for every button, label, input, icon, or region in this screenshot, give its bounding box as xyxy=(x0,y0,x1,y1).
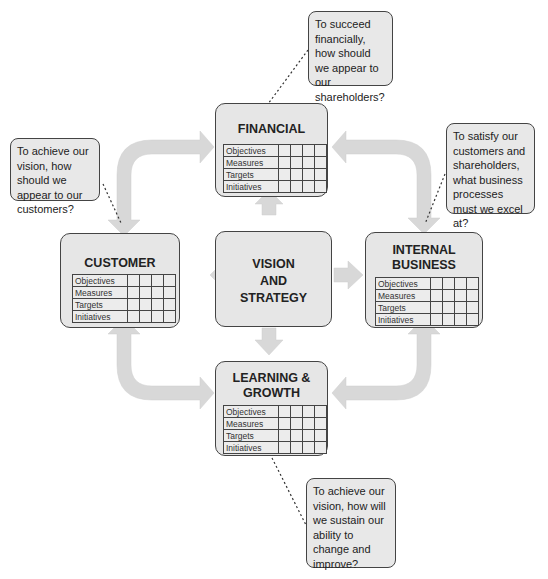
table-row: Objectives xyxy=(376,278,479,290)
arrow-customer-to-financial xyxy=(108,131,214,236)
scorecard-cell xyxy=(455,278,467,290)
scorecard-cell xyxy=(279,157,291,169)
table-row: Measures xyxy=(376,290,479,302)
vision-strategy-title: VISION AND STRATEGY xyxy=(216,256,331,307)
scorecard-cell xyxy=(431,278,443,290)
scorecard-cell xyxy=(140,299,152,311)
row-label-targets: Targets xyxy=(376,302,431,314)
connector-financial-question xyxy=(268,50,308,104)
customer-perspective-box: CUSTOMER Objectives Measures Targets Ini… xyxy=(60,233,180,328)
customer-scorecard-table: Objectives Measures Targets Initiatives xyxy=(72,274,176,323)
financial-title: FINANCIAL xyxy=(216,122,327,137)
learning-growth-title: LEARNING & GROWTH xyxy=(216,371,327,401)
scorecard-cell xyxy=(152,275,164,287)
table-row: Objectives xyxy=(224,145,327,157)
scorecard-cell xyxy=(164,311,176,323)
internal-title-line-1: INTERNAL xyxy=(366,243,482,258)
financial-perspective-box: FINANCIAL Objectives Measures Targets In… xyxy=(215,103,328,197)
row-label-objectives: Objectives xyxy=(73,275,128,287)
scorecard-cell xyxy=(303,169,315,181)
row-label-initiatives: Initiatives xyxy=(224,181,279,193)
scorecard-cell xyxy=(455,314,467,326)
scorecard-cell xyxy=(467,290,479,302)
scorecard-cell xyxy=(315,145,327,157)
row-label-initiatives: Initiatives xyxy=(73,311,128,323)
scorecard-cell xyxy=(164,275,176,287)
scorecard-cell xyxy=(315,430,327,442)
scorecard-cell xyxy=(315,418,327,430)
row-label-objectives: Objectives xyxy=(376,278,431,290)
scorecard-cell xyxy=(303,406,315,418)
table-row: Initiatives xyxy=(224,181,327,193)
financial-scorecard-table: Objectives Measures Targets Initiatives xyxy=(223,144,327,193)
scorecard-cell xyxy=(128,275,140,287)
row-label-objectives: Objectives xyxy=(224,406,279,418)
row-label-measures: Measures xyxy=(224,157,279,169)
scorecard-cell xyxy=(443,290,455,302)
internal-business-title: INTERNAL BUSINESS xyxy=(366,243,482,273)
table-row: Measures xyxy=(73,287,176,299)
scorecard-cell xyxy=(431,302,443,314)
table-row: Targets xyxy=(73,299,176,311)
arrow-learning-to-customer xyxy=(108,318,214,409)
internal-title-line-2: BUSINESS xyxy=(366,258,482,273)
scorecard-cell xyxy=(291,169,303,181)
financial-question-bubble: To succeed financially, how should we ap… xyxy=(308,11,393,86)
scorecard-cell xyxy=(467,278,479,290)
scorecard-cell xyxy=(467,302,479,314)
table-row: Initiatives xyxy=(224,442,327,454)
scorecard-cell xyxy=(279,418,291,430)
scorecard-cell xyxy=(291,145,303,157)
table-row: Targets xyxy=(224,169,327,181)
arrow-center-to-learning xyxy=(255,328,283,355)
connector-learning-question xyxy=(272,458,307,527)
scorecard-cell xyxy=(164,287,176,299)
table-row: Objectives xyxy=(224,406,327,418)
row-label-initiatives: Initiatives xyxy=(224,442,279,454)
scorecard-cell xyxy=(443,278,455,290)
center-line-3: STRATEGY xyxy=(216,290,331,307)
arrow-center-to-internal xyxy=(334,261,363,289)
scorecard-cell xyxy=(315,157,327,169)
scorecard-cell xyxy=(455,302,467,314)
row-label-targets: Targets xyxy=(73,299,128,311)
scorecard-cell xyxy=(303,442,315,454)
scorecard-cell xyxy=(455,290,467,302)
scorecard-cell xyxy=(291,406,303,418)
scorecard-cell xyxy=(431,290,443,302)
learning-growth-scorecard-table: Objectives Measures Targets Initiatives xyxy=(223,405,327,454)
row-label-targets: Targets xyxy=(224,169,279,181)
table-row: Measures xyxy=(224,418,327,430)
scorecard-cell xyxy=(164,299,176,311)
scorecard-cell xyxy=(152,299,164,311)
row-label-measures: Measures xyxy=(224,418,279,430)
scorecard-cell xyxy=(279,145,291,157)
scorecard-cell xyxy=(291,442,303,454)
table-row: Targets xyxy=(224,430,327,442)
scorecard-cell xyxy=(279,169,291,181)
scorecard-cell xyxy=(315,442,327,454)
arrow-internal-to-learning xyxy=(332,318,440,409)
customer-title: CUSTOMER xyxy=(61,256,179,271)
scorecard-cell xyxy=(128,287,140,299)
learning-title-line-2: GROWTH xyxy=(216,386,327,401)
scorecard-cell xyxy=(315,406,327,418)
scorecard-cell xyxy=(315,181,327,193)
row-label-initiatives: Initiatives xyxy=(376,314,431,326)
scorecard-cell xyxy=(291,418,303,430)
vision-strategy-box: VISION AND STRATEGY xyxy=(215,231,332,327)
scorecard-cell xyxy=(128,299,140,311)
center-line-1: VISION xyxy=(216,256,331,273)
arrow-financial-to-internal xyxy=(332,131,440,234)
learning-growth-perspective-box: LEARNING & GROWTH Objectives Measures Ta… xyxy=(215,361,328,456)
scorecard-cell xyxy=(303,418,315,430)
scorecard-cell xyxy=(279,442,291,454)
internal-business-perspective-box: INTERNAL BUSINESS Objectives Measures Ta… xyxy=(365,232,483,328)
scorecard-cell xyxy=(315,169,327,181)
scorecard-cell xyxy=(140,311,152,323)
scorecard-cell xyxy=(431,314,443,326)
scorecard-cell xyxy=(303,157,315,169)
scorecard-cell xyxy=(152,287,164,299)
row-label-measures: Measures xyxy=(376,290,431,302)
center-line-2: AND xyxy=(216,273,331,290)
